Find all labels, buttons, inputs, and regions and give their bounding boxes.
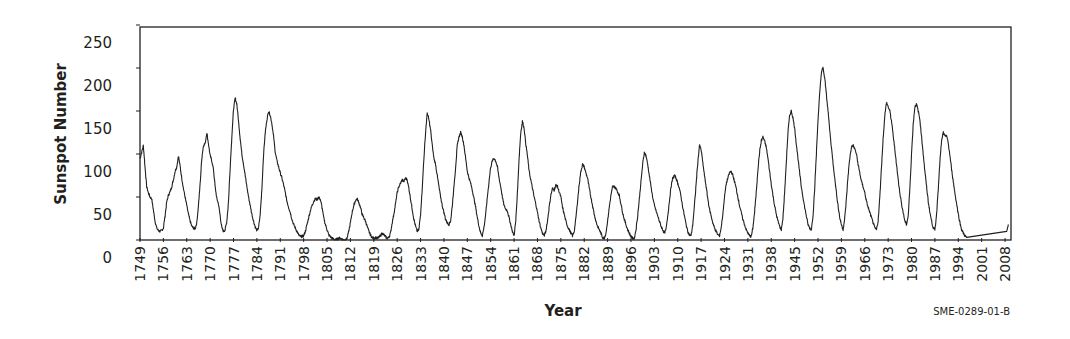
x-tick-label: 1868 <box>529 246 545 282</box>
x-tick-label: 1952 <box>810 246 826 282</box>
x-tick-label: 1875 <box>553 246 569 282</box>
x-axis-tick-labels: 1749175617631770177717841791179818051812… <box>132 246 1013 282</box>
x-tick-label: 1840 <box>436 246 452 282</box>
x-axis-title: Year <box>543 302 582 320</box>
y-tick-label: 100 <box>83 163 112 181</box>
x-tick-label: 1903 <box>646 246 662 282</box>
x-tick-label: 1819 <box>366 246 382 282</box>
x-tick-label: 1763 <box>179 246 195 282</box>
x-tick-label: 1812 <box>342 246 358 282</box>
y-tick-label: 150 <box>83 120 112 138</box>
x-tick-label: 1749 <box>132 246 148 282</box>
y-tick-label: 250 <box>83 34 112 52</box>
y-axis-tick-labels: 050100150200250 <box>83 34 112 267</box>
x-tick-label: 1784 <box>249 246 265 282</box>
y-axis-title: Sunspot Number <box>52 63 70 205</box>
x-tick-label: 1826 <box>389 246 405 282</box>
x-tick-label: 1994 <box>950 246 966 282</box>
x-tick-label: 1791 <box>272 246 288 282</box>
x-tick-label: 1973 <box>880 246 896 282</box>
x-tick-label: 1798 <box>296 246 312 282</box>
x-tick-label: 1987 <box>927 246 943 282</box>
x-tick-label: 1924 <box>717 246 733 282</box>
y-tick-label: 0 <box>102 249 112 267</box>
sunspot-chart: 050100150200250 174917561763177017771784… <box>0 0 1070 339</box>
x-tick-label: 1945 <box>787 246 803 282</box>
x-tick-label: 1889 <box>600 246 616 282</box>
x-tick-label: 1854 <box>483 246 499 282</box>
plot-frame <box>140 27 1011 240</box>
x-tick-label: 1938 <box>763 246 779 282</box>
x-tick-label: 1896 <box>623 246 639 282</box>
x-tick-label: 2008 <box>997 246 1013 282</box>
x-tick-label: 1959 <box>833 246 849 282</box>
x-tick-label: 1980 <box>904 246 920 282</box>
y-tick-label: 50 <box>93 206 112 224</box>
x-tick-label: 1756 <box>155 246 171 282</box>
x-tick-label: 1910 <box>670 246 686 282</box>
figure-code: SME-0289-01-B <box>933 306 1010 317</box>
x-tick-label: 2001 <box>974 246 990 282</box>
y-tick-label: 200 <box>83 77 112 95</box>
x-tick-label: 1931 <box>740 246 756 282</box>
x-tick-label: 1770 <box>202 246 218 282</box>
x-tick-label: 1882 <box>576 246 592 282</box>
x-tick-label: 1805 <box>319 246 335 282</box>
x-tick-label: 1833 <box>413 246 429 282</box>
x-tick-label: 1777 <box>226 246 242 282</box>
x-tick-label: 1861 <box>506 246 522 282</box>
x-tick-label: 1966 <box>857 246 873 282</box>
x-tick-label: 1847 <box>459 246 475 282</box>
x-tick-label: 1917 <box>693 246 709 282</box>
